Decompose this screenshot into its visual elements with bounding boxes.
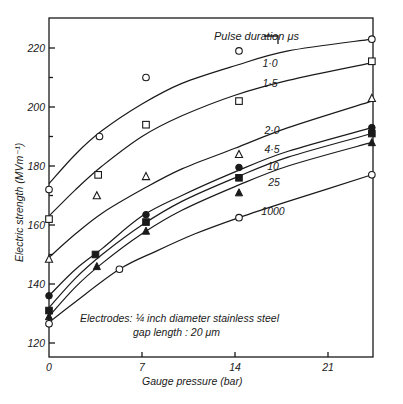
series-labels: 1·01·52·04·510251000 — [261, 57, 285, 217]
open-circle-marker — [369, 36, 376, 43]
series-label: 2·0 — [263, 124, 279, 136]
filled-square-marker — [92, 251, 99, 258]
series-label: 10 — [267, 160, 279, 172]
filled-square-marker — [369, 130, 376, 137]
y-tick-label: 220 — [26, 42, 45, 54]
open-square-marker — [95, 172, 102, 179]
x-tick-label: 7 — [139, 361, 146, 373]
open-square-marker — [46, 216, 53, 223]
curve-4-5 — [49, 128, 372, 296]
legend-title: Pulse duration μs — [214, 30, 299, 42]
x-tick-label: 14 — [229, 361, 241, 373]
y-tick-label: 200 — [26, 101, 45, 113]
y-tick-label: 120 — [27, 337, 45, 349]
data-markers — [45, 36, 375, 327]
series-label: 1000 — [261, 205, 285, 217]
open-triangle-marker — [45, 255, 52, 262]
y-tick-label: 140 — [27, 278, 45, 290]
open-circle-marker — [236, 214, 243, 221]
open-square-marker — [143, 121, 150, 128]
open-circle-marker — [116, 266, 123, 273]
filled-triangle-marker — [142, 227, 149, 234]
open-triangle-marker — [368, 94, 375, 101]
chart: 120140160180200220071421 1·01·52·04·5102… — [0, 0, 403, 404]
x-axis-label: Gauge pressure (bar) — [142, 375, 242, 387]
open-square-marker — [369, 58, 376, 65]
annotation-line-2: gap length : 20 μm — [133, 326, 220, 338]
x-tick-label: 21 — [321, 361, 334, 373]
curve-1-0 — [49, 39, 372, 184]
series-label: 25 — [267, 176, 280, 188]
fitted-curves — [49, 39, 372, 322]
curve-10 — [49, 134, 372, 308]
filled-circle-marker — [46, 293, 53, 300]
open-circle-marker — [369, 172, 376, 179]
filled-square-marker — [236, 175, 243, 182]
x-tick-label: 0 — [46, 361, 52, 373]
filled-circle-marker — [143, 211, 150, 218]
y-tick-label: 180 — [27, 160, 45, 172]
open-circle-marker — [143, 74, 150, 81]
series-label: 1·5 — [262, 77, 277, 89]
y-tick-label: 160 — [27, 219, 45, 231]
open-circle-marker — [46, 186, 53, 193]
open-circle-marker — [96, 133, 103, 140]
series-label: 1·0 — [262, 57, 277, 69]
y-axis-label: Electric strength (MVm⁻¹) — [13, 143, 25, 262]
filled-triangle-marker — [368, 139, 375, 146]
filled-triangle-marker — [235, 189, 242, 196]
open-circle-marker — [46, 321, 53, 328]
open-triangle-marker — [93, 192, 100, 199]
open-triangle-marker — [235, 150, 242, 157]
open-circle-marker — [236, 48, 243, 55]
curve-25 — [49, 142, 372, 316]
annotation-line-1: Electrodes: ¼ inch diameter stainless st… — [80, 312, 280, 324]
filled-circle-marker — [236, 164, 243, 171]
filled-square-marker — [143, 219, 150, 226]
series-label: 4·5 — [264, 143, 279, 155]
open-square-marker — [236, 98, 243, 105]
curve-2-0 — [49, 101, 372, 257]
open-triangle-marker — [142, 173, 149, 180]
